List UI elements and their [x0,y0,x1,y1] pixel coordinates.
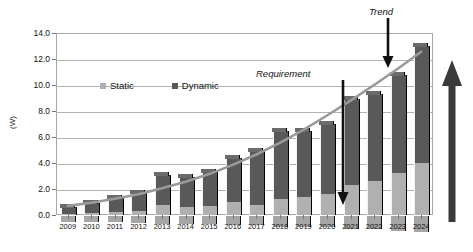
x-tick-mark [327,215,328,219]
trend-annotation-label: Trend [369,6,393,17]
legend-label-dynamic: Dynamic [182,80,219,91]
x-tick-mark [374,215,375,219]
x-tick-mark [91,215,92,219]
legend-item-static: Static [100,80,134,91]
y-tick-label: 14.0 [6,29,50,37]
x-tick-mark [421,215,422,219]
y-tick-label: 10.0 [6,81,50,89]
legend-item-dynamic: Dynamic [172,80,219,91]
x-tick-mark [398,215,399,219]
x-tick-mark [68,215,69,219]
trend-annotation-arrow-icon [381,18,395,68]
x-tick-mark [162,215,163,219]
x-tick-mark [233,215,234,219]
y-tick-label: 8.0 [6,107,50,115]
x-tick-mark [138,215,139,219]
y-tick-label: 12.0 [6,55,50,63]
legend-swatch-dynamic [172,83,178,89]
y-tick-label: 6.0 [6,133,50,141]
chart-legend: Static Dynamic [100,80,219,91]
y-tick-label: 2.0 [6,185,50,193]
trend-curve [56,33,433,215]
x-tick-mark [186,215,187,219]
x-tick-mark [256,215,257,219]
growth-arrow-icon [441,60,463,222]
x-tick-mark [209,215,210,219]
power-trend-chart: (W) 0.02.04.06.08.010.012.014.0 20092010… [0,0,473,252]
x-tick-mark [303,215,304,219]
x-tick-mark [280,215,281,219]
legend-label-static: Static [110,80,134,91]
x-tick-label: 2024 [406,222,436,231]
requirement-annotation-arrow-icon [336,80,350,205]
x-tick-mark [351,215,352,219]
legend-swatch-static [100,83,106,89]
y-tick-label: 4.0 [6,159,50,167]
requirement-annotation-label: Requirement [256,68,310,79]
x-tick-mark [115,215,116,219]
y-tick-label: 0.0 [6,211,50,219]
